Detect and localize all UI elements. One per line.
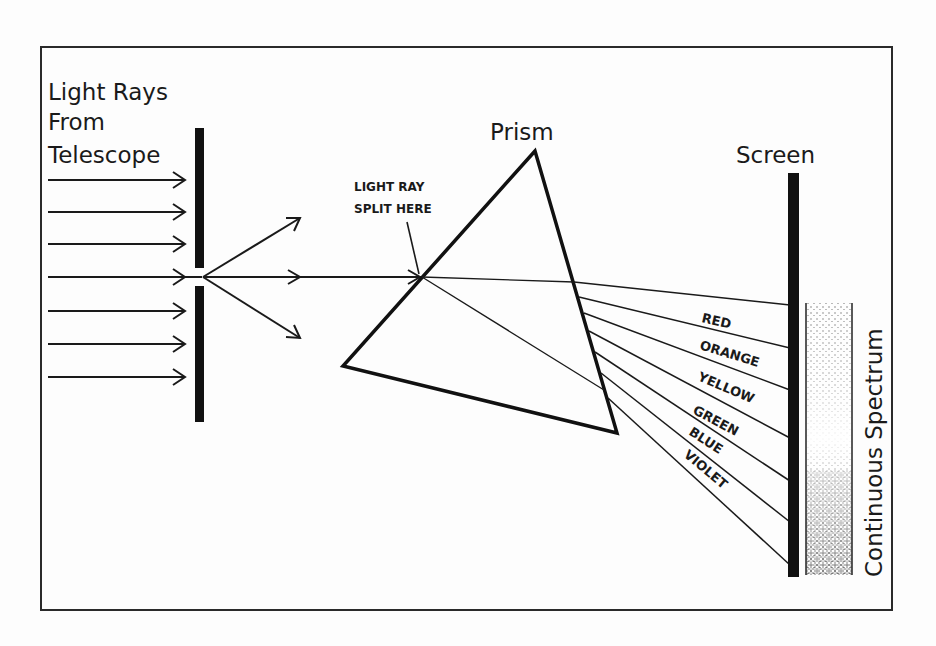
ray-violet (601, 373, 790, 522)
slit-barrier-bottom (195, 286, 204, 422)
continuous-spectrum-box (806, 303, 852, 575)
split-note: LIGHT RAY SPLIT HERE (354, 180, 432, 216)
screen-label: Screen (736, 142, 815, 168)
ray-green (589, 331, 790, 438)
split-pointer (407, 222, 419, 274)
prism-label: Prism (490, 119, 554, 145)
incoming-ray-arrow-icon (48, 369, 185, 385)
ray-yellow (584, 313, 790, 390)
incoming-rays (48, 172, 202, 385)
band-label-orange: ORANGE (698, 338, 761, 370)
slit-barrier-top (195, 128, 204, 268)
ray-red (574, 282, 790, 305)
dispersed-rays (574, 282, 790, 565)
source-label: Light Rays From Telescope (47, 79, 175, 168)
diagram-frame (41, 47, 892, 610)
prism-dispersion-diagram: Light Rays From Telescope Prism LIGHT RA… (0, 0, 936, 646)
incoming-ray-arrow-icon (48, 236, 185, 252)
diffracted-rays (203, 218, 422, 338)
incoming-ray-arrow-icon (48, 204, 185, 220)
incoming-ray-arrow-icon (48, 269, 202, 285)
band-label-red: RED (700, 310, 732, 331)
continuous-spectrum-label: Continuous Spectrum (861, 328, 887, 577)
incoming-ray-arrow-icon (48, 303, 185, 319)
incoming-ray-arrow-icon (48, 336, 185, 352)
screen-bar (788, 173, 799, 577)
incoming-ray-arrow-icon (48, 172, 185, 188)
